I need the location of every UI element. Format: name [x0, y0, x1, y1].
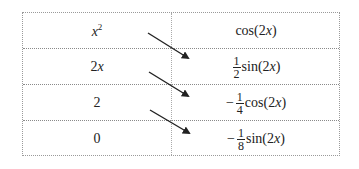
function-close: ): [276, 59, 281, 75]
fraction: 12: [233, 55, 241, 80]
integral-cell: −14cos(2x): [171, 85, 341, 121]
variable: x: [97, 59, 103, 74]
derivative-cell: x2: [23, 13, 171, 49]
integral-cell: −18sin(2x): [171, 121, 341, 157]
denominator: 8: [237, 140, 245, 152]
function-close: ): [272, 23, 277, 38]
table-row: x2 cos(2x): [23, 13, 339, 49]
function-close: ): [281, 95, 286, 111]
table-row: 0 −18sin(2x): [23, 121, 339, 157]
exponent: 2: [98, 22, 103, 32]
function-close: ): [280, 131, 285, 147]
denominator: 2: [233, 68, 241, 80]
table-row: 2 −14cos(2x): [23, 85, 339, 121]
function-text: cos(2: [235, 23, 265, 38]
tabular-integration-table: x2 cos(2x) 2x 12sin(2x) 2 −14cos(2x) 0 −…: [22, 12, 340, 156]
table-row: 2x 12sin(2x): [23, 49, 339, 85]
denominator: 4: [236, 104, 244, 116]
derivative-value: 0: [94, 131, 101, 147]
numerator: 1: [236, 91, 244, 104]
derivative-value: 2: [94, 95, 101, 111]
numerator: 1: [233, 55, 241, 68]
minus-sign: −: [227, 131, 235, 147]
fraction: 14: [236, 91, 244, 116]
function-text: sin(2: [246, 131, 274, 147]
integral-cell: 12sin(2x): [171, 49, 341, 85]
function-text: sin(2: [242, 59, 270, 75]
function-text: cos(2: [245, 95, 275, 111]
derivative-cell: 0: [23, 121, 171, 157]
derivative-cell: 2: [23, 85, 171, 121]
numerator: 1: [237, 127, 245, 140]
derivative-cell: 2x: [23, 49, 171, 85]
integral-cell: cos(2x): [171, 13, 341, 49]
minus-sign: −: [226, 95, 234, 111]
fraction: 18: [237, 127, 245, 152]
